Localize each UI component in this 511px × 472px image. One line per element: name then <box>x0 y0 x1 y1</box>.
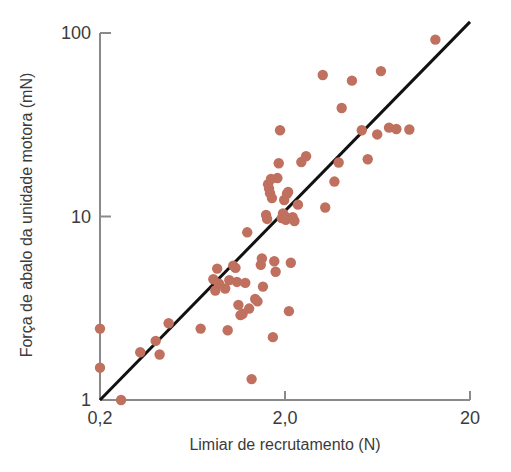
scatter-point <box>244 303 254 313</box>
scatter-point <box>301 151 311 161</box>
scatter-point <box>268 332 278 342</box>
x-axis-tick-labels: 0,22,020 <box>87 408 480 428</box>
scatter-points-group <box>95 34 441 405</box>
scatter-point <box>289 216 299 226</box>
scatter-point <box>336 103 346 113</box>
scatter-point <box>116 395 126 405</box>
scatter-point <box>212 263 222 273</box>
y-tick-label: 100 <box>61 23 91 43</box>
scatter-point <box>154 349 164 359</box>
scatter-point <box>363 154 373 164</box>
scatter-point <box>357 125 367 135</box>
scatter-point <box>267 193 277 203</box>
scatter-point <box>95 362 105 372</box>
scatter-plot-figure: 110100 0,22,020 Limiar de recrutamento (… <box>0 0 511 472</box>
y-tick-label: 10 <box>71 207 91 227</box>
scatter-point <box>195 323 205 333</box>
y-axis-ticks <box>100 33 111 400</box>
scatter-point <box>258 281 268 291</box>
scatter-point <box>150 336 160 346</box>
scatter-point <box>329 176 339 186</box>
scatter-point <box>283 187 293 197</box>
scatter-point <box>269 256 279 266</box>
x-tick-label: 2,0 <box>272 408 297 428</box>
scatter-point <box>233 300 243 310</box>
chart-canvas: 110100 0,22,020 Limiar de recrutamento (… <box>0 0 511 472</box>
scatter-point <box>391 124 401 134</box>
y-axis-tick-labels: 110100 <box>61 23 91 410</box>
scatter-point <box>163 318 173 328</box>
x-axis-ticks <box>100 391 470 400</box>
scatter-point <box>372 129 382 139</box>
scatter-point <box>257 253 267 263</box>
scatter-point <box>246 374 256 384</box>
scatter-point <box>318 70 328 80</box>
scatter-point <box>430 34 440 44</box>
scatter-point <box>404 124 414 134</box>
scatter-point <box>347 75 357 85</box>
scatter-point <box>95 323 105 333</box>
scatter-point <box>270 267 280 277</box>
x-tick-label: 0,2 <box>87 408 112 428</box>
scatter-point <box>274 158 284 168</box>
scatter-point <box>275 125 285 135</box>
scatter-point <box>222 325 232 335</box>
scatter-point <box>293 199 303 209</box>
scatter-point <box>333 157 343 167</box>
y-axis-title: Força de abalo da unidade motora (mN) <box>18 73 35 358</box>
scatter-point <box>252 296 262 306</box>
y-tick-label: 1 <box>81 390 91 410</box>
scatter-point <box>242 227 252 237</box>
scatter-point <box>230 263 240 273</box>
scatter-point <box>284 306 294 316</box>
scatter-point <box>320 202 330 212</box>
scatter-point <box>135 347 145 357</box>
scatter-point <box>376 66 386 76</box>
scatter-point <box>262 214 272 224</box>
x-axis-title: Limiar de recrutamento (N) <box>189 436 380 453</box>
scatter-point <box>286 258 296 268</box>
x-tick-label: 20 <box>460 408 480 428</box>
scatter-point <box>272 173 282 183</box>
scatter-point <box>240 278 250 288</box>
